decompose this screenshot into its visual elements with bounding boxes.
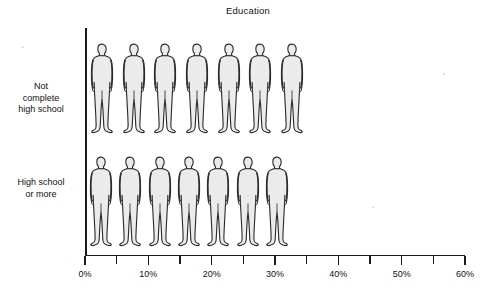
person-icon [246, 36, 274, 140]
x-axis-tick [211, 256, 212, 265]
chart-title: Education [0, 5, 496, 16]
x-axis-tick [148, 256, 149, 265]
x-axis-tick-label: 10% [139, 269, 157, 279]
person-icon [263, 150, 291, 252]
x-axis-tick [338, 256, 339, 265]
person-icon [215, 36, 243, 140]
x-axis-tick [433, 256, 434, 264]
scan-speck [372, 206, 374, 208]
person-icon [175, 150, 203, 252]
x-axis-tick [243, 256, 244, 264]
category-label-line: high school [4, 104, 78, 116]
category-label-line: complete [4, 93, 78, 105]
category-label-line: or more [4, 189, 78, 201]
x-axis-tick-label: 60% [456, 269, 474, 279]
x-axis-tick-label: 30% [266, 269, 284, 279]
person-icon [120, 36, 148, 140]
person-icon [88, 36, 116, 140]
x-axis-tick [306, 256, 307, 264]
x-axis-tick-label: 0% [78, 269, 91, 279]
x-axis-tick [401, 256, 402, 265]
person-icon [278, 36, 306, 140]
person-icon [116, 150, 144, 252]
person-icon [151, 36, 179, 140]
category-label-line: High school [4, 177, 78, 189]
x-axis-tick [116, 256, 117, 264]
x-axis-tick-label: 20% [203, 269, 221, 279]
scan-speck [22, 46, 24, 48]
x-axis-tick [464, 256, 465, 265]
x-axis-tick [179, 256, 180, 264]
pictogram-chart: Education 0%10%20%30%40%50%60% Notcomple… [0, 0, 496, 302]
category-label-not-complete-high-school: Notcompletehigh school [4, 81, 78, 116]
scan-speck [443, 73, 445, 75]
person-icon [183, 36, 211, 140]
x-axis-tick [369, 256, 370, 264]
x-axis-tick-label: 50% [393, 269, 411, 279]
person-icon [146, 150, 174, 252]
person-icon [204, 150, 232, 252]
category-label-line: Not [4, 81, 78, 93]
x-axis-tick [84, 256, 85, 265]
person-icon [234, 150, 262, 252]
x-axis-tick-label: 40% [329, 269, 347, 279]
person-icon [87, 150, 115, 252]
x-axis-tick [274, 256, 275, 265]
category-label-high-school-or-more: High schoolor more [4, 177, 78, 200]
